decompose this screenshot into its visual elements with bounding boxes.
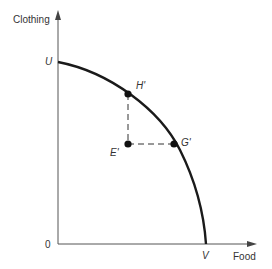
x-axis-arrow-icon bbox=[247, 241, 257, 247]
label-h-prime: H' bbox=[136, 81, 145, 91]
label-u: U bbox=[45, 57, 52, 67]
point-g-prime bbox=[170, 140, 177, 147]
ppf-diagram bbox=[0, 0, 272, 269]
frontier-curve bbox=[58, 62, 206, 244]
label-e-prime: E' bbox=[110, 148, 119, 158]
y-axis-label: Clothing bbox=[13, 15, 50, 25]
y-axis-arrow-icon bbox=[55, 10, 61, 20]
x-axis-label: Food bbox=[233, 252, 256, 262]
point-h-prime bbox=[124, 90, 131, 97]
label-g-prime: G' bbox=[181, 138, 191, 148]
point-e-prime bbox=[124, 140, 131, 147]
origin-label: 0 bbox=[45, 240, 51, 250]
label-v: V bbox=[202, 251, 209, 261]
